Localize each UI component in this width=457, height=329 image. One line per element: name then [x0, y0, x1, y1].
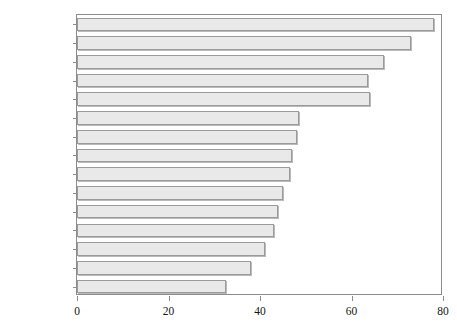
bar-row: China	[77, 34, 443, 53]
bar	[77, 205, 278, 219]
x-axis-tick	[260, 296, 261, 301]
x-axis-tick	[443, 296, 444, 301]
bar	[77, 36, 411, 50]
bar	[77, 242, 265, 256]
bar-row: India	[77, 15, 443, 34]
bar	[77, 92, 370, 106]
bar	[77, 130, 297, 144]
x-axis-tick	[77, 296, 78, 301]
x-axis-tick	[169, 296, 170, 301]
bar-row: Mexico	[77, 52, 443, 71]
bar	[77, 261, 251, 275]
bar-chart: IndiaChinaMexicoCanadaUnited StatesAustr…	[0, 0, 457, 329]
bar	[77, 224, 274, 238]
bar-row: Japan	[77, 184, 443, 203]
bar-row: Italy	[77, 165, 443, 184]
bar-row: United States	[77, 90, 443, 109]
x-axis-tick	[352, 296, 353, 301]
bar-row: Germany	[77, 240, 443, 259]
chart-title	[0, 0, 457, 3]
plot-area: IndiaChinaMexicoCanadaUnited StatesAustr…	[76, 14, 442, 295]
bar	[77, 167, 290, 181]
bar-row: Argentina	[77, 221, 443, 240]
bar	[77, 149, 292, 163]
bar	[77, 55, 384, 69]
bar-row: Brazil	[77, 146, 443, 165]
x-axis-tick-label: 60	[332, 305, 372, 317]
bar-row: Nigeria	[77, 127, 443, 146]
bar-row: France	[77, 277, 443, 296]
bar-row: South Africa	[77, 202, 443, 221]
x-axis-tick-label: 80	[423, 305, 457, 317]
bar	[77, 186, 283, 200]
bar-row: Australia	[77, 109, 443, 128]
x-axis-tick-label: 20	[149, 305, 189, 317]
bar-row: U.K.	[77, 259, 443, 278]
bar	[77, 74, 368, 88]
bar	[77, 18, 434, 32]
bar	[77, 111, 299, 125]
bar	[77, 280, 226, 294]
x-axis-tick-label: 0	[57, 305, 97, 317]
bar-row: Canada	[77, 71, 443, 90]
x-axis-tick-label: 40	[240, 305, 280, 317]
